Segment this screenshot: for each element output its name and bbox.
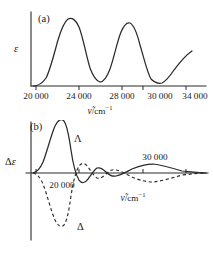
panel-a-label: (a): [38, 13, 50, 25]
panel-b-ticklabel-30000: 30 000: [142, 152, 168, 162]
panel-b-label: (b): [30, 121, 43, 133]
panel-b-x-exponent: −1: [138, 191, 145, 198]
panel-b-x-unit: /cm: [125, 193, 139, 203]
panel-b-y-epsilon: ε: [12, 156, 17, 167]
panel-b-y-axis-label: Δε: [5, 156, 17, 167]
panel-b: (b) Δε Λ Δ 20 000 30 000 ν̃/cm−1: [0, 120, 213, 253]
panel-a-ticklabel-28000: 28 000: [109, 91, 135, 101]
panel-a-x-axis-label: ν̃/cm−1: [87, 104, 112, 116]
panel-a: (a) ε 20 000 24 000 28 000 30 000 34 000…: [0, 0, 213, 120]
panel-a-ticklabel-24000: 24 000: [66, 91, 92, 101]
panel-b-x-axis-label: ν̃/cm−1: [120, 191, 145, 203]
panel-b-ticklabel-20000: 20 000: [49, 180, 75, 190]
panel-a-x-exponent: −1: [105, 104, 112, 111]
figure-container: (a) ε 20 000 24 000 28 000 30 000 34 000…: [0, 0, 213, 253]
panel-a-x-unit: /cm: [92, 106, 106, 116]
panel-a-ticklabel-30000: 30 000: [147, 91, 173, 101]
panel-a-y-axis-label: ε: [14, 43, 19, 54]
panel-a-absorption-curve: [33, 18, 192, 86]
panel-a-ticklabel-34000: 34 000: [182, 91, 208, 101]
panel-b-delta-curve-label: Δ: [77, 221, 84, 232]
panel-b-lambda-curve-label: Λ: [74, 133, 82, 144]
panel-a-ticklabel-20000: 20 000: [23, 91, 49, 101]
